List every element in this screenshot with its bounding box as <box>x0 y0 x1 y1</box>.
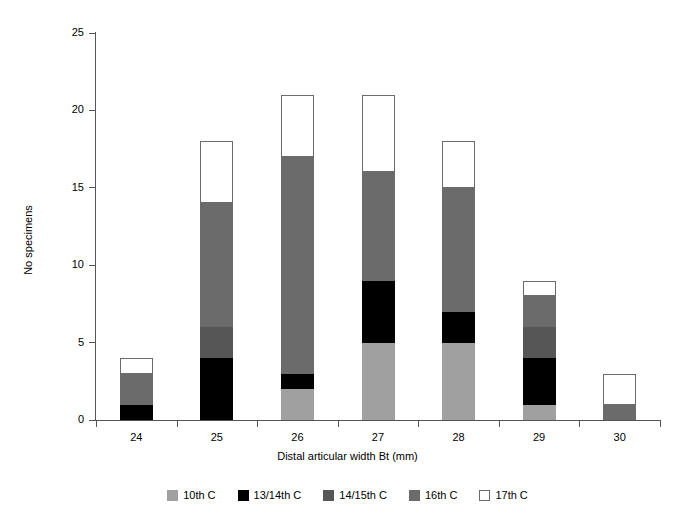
x-axis-tick-mark <box>177 421 178 427</box>
x-axis-title: Distal articular width Bt (mm) <box>0 450 695 462</box>
bar-segment <box>200 358 233 420</box>
bar-segment <box>362 281 395 343</box>
x-axis-tick-mark <box>257 421 258 427</box>
y-axis-tick-mark <box>89 420 96 421</box>
bar-segment <box>603 405 636 420</box>
bar-segment <box>523 296 556 327</box>
bar-24[interactable] <box>120 33 153 420</box>
y-axis-title-text: No specimens <box>22 205 34 275</box>
bar-segment <box>603 374 636 405</box>
bar-segment <box>281 374 314 389</box>
x-axis-tick-mark <box>499 421 500 427</box>
x-axis-tick-label: 24 <box>96 431 177 444</box>
x-axis-tick-label: 27 <box>338 431 419 444</box>
legend-swatch-icon <box>409 490 420 501</box>
legend-label: 13/14th C <box>254 489 302 502</box>
x-axis-tick-label: 30 <box>579 431 660 444</box>
y-axis-tick-mark <box>89 33 96 34</box>
plot-area <box>96 33 660 420</box>
legend-label: 16th C <box>425 489 457 502</box>
bar-segment <box>362 95 395 172</box>
y-axis-tick-label: 10 <box>72 258 84 271</box>
legend-label: 10th C <box>183 489 215 502</box>
bar-segment <box>200 203 233 327</box>
y-axis-tick-mark <box>89 342 96 343</box>
legend-item-14-15th-c[interactable]: 14/15th C <box>323 489 387 502</box>
bar-segment <box>523 327 556 358</box>
legend-item-13-14th-c[interactable]: 13/14th C <box>238 489 302 502</box>
x-axis-tick-mark <box>418 421 419 427</box>
bar-segment <box>523 405 556 420</box>
y-axis-tick-mark <box>89 110 96 111</box>
bar-segment <box>200 327 233 358</box>
bar-segment <box>281 95 314 157</box>
bar-segment <box>281 157 314 374</box>
y-axis-tick-label: 20 <box>72 103 84 116</box>
bar-29[interactable] <box>523 33 556 420</box>
y-axis-tick-label: 0 <box>78 413 84 426</box>
bar-segment <box>362 172 395 280</box>
chart-legend: 10th C13/14th C14/15th C16th C17th C <box>0 489 695 502</box>
bar-30[interactable] <box>603 33 636 420</box>
bar-segment <box>281 389 314 420</box>
bar-27[interactable] <box>362 33 395 420</box>
bar-segment <box>120 358 153 373</box>
bar-segment <box>200 141 233 203</box>
bar-segment <box>362 343 395 420</box>
legend-item-17th-c[interactable]: 17th C <box>479 489 527 502</box>
bar-25[interactable] <box>200 33 233 420</box>
legend-label: 17th C <box>495 489 527 502</box>
bar-segment <box>442 141 475 187</box>
x-axis-tick-mark <box>338 421 339 427</box>
bar-segment <box>442 312 475 343</box>
y-axis-tick-mark <box>89 187 96 188</box>
x-axis-tick-mark <box>660 421 661 427</box>
bar-segment <box>442 343 475 420</box>
x-axis-tick-label: 25 <box>177 431 258 444</box>
bar-segment <box>442 188 475 312</box>
bar-28[interactable] <box>442 33 475 420</box>
legend-swatch-icon <box>479 490 490 501</box>
legend-item-16th-c[interactable]: 16th C <box>409 489 457 502</box>
x-axis-tick-mark <box>579 421 580 427</box>
y-axis-tick-label: 5 <box>78 336 84 349</box>
chart-figure: 0510152025 24252627282930 No specimens D… <box>0 0 695 521</box>
bar-segment <box>523 281 556 296</box>
x-axis-line <box>95 420 661 421</box>
y-axis-tick-mark <box>89 265 96 266</box>
x-axis-tick-label: 29 <box>499 431 580 444</box>
bar-segment <box>523 358 556 404</box>
legend-swatch-icon <box>167 490 178 501</box>
x-axis-tick-label: 28 <box>418 431 499 444</box>
legend-label: 14/15th C <box>339 489 387 502</box>
bar-segment <box>120 374 153 405</box>
y-axis-tick-label: 25 <box>72 26 84 39</box>
legend-swatch-icon <box>238 490 249 501</box>
y-axis-title: No specimens <box>20 180 36 300</box>
bar-26[interactable] <box>281 33 314 420</box>
x-axis-tick-label: 26 <box>257 431 338 444</box>
bar-segment <box>120 405 153 420</box>
y-axis-tick-label: 15 <box>72 181 84 194</box>
legend-swatch-icon <box>323 490 334 501</box>
legend-item-10th-c[interactable]: 10th C <box>167 489 215 502</box>
x-axis-tick-mark <box>96 421 97 427</box>
